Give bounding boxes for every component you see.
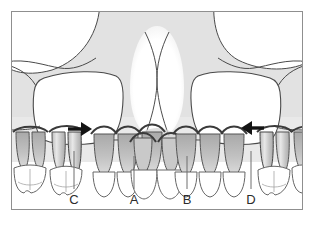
label-b: B bbox=[183, 192, 192, 207]
figure-frame: C A B D bbox=[11, 11, 303, 210]
label-d: D bbox=[246, 192, 255, 207]
label-a: A bbox=[130, 192, 139, 207]
anatomy-illustration: C A B D bbox=[12, 12, 302, 209]
label-c: C bbox=[69, 192, 78, 207]
figure-canvas: C A B D bbox=[0, 0, 315, 225]
